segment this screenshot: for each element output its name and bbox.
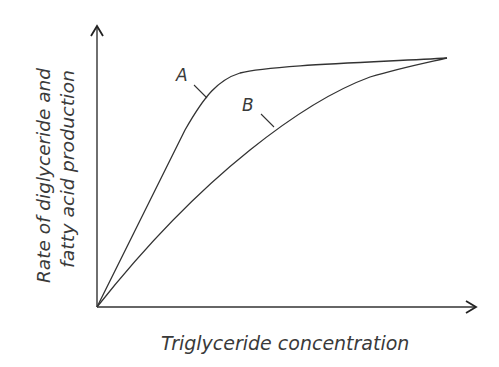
curve-b	[97, 58, 447, 307]
label-b-leader	[261, 114, 274, 127]
label-b: B	[242, 95, 254, 115]
label-a: A	[175, 65, 188, 85]
y-axis-title-line1: Rate of diglyceride and	[33, 68, 54, 283]
y-axis-title-line2: fatty acid production	[57, 70, 78, 268]
label-a-leader	[194, 85, 207, 98]
chart-canvas: A B Triglyceride concentration Rate of d…	[0, 0, 499, 367]
curve-a	[97, 58, 447, 307]
x-axis-title: Triglyceride concentration	[161, 332, 409, 354]
